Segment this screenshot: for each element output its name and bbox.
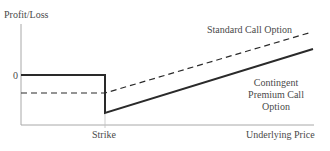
contingent-premium-annotation: Contingent Premium Call Option	[240, 77, 312, 113]
standard-call-annotation: Standard Call Option	[207, 24, 292, 35]
payoff-chart: Profit/Loss 0 Strike Underlying Price St…	[0, 0, 330, 151]
x-axis-label: Underlying Price	[246, 129, 315, 140]
y-axis-label: Profit/Loss	[4, 9, 48, 20]
x-tick-strike: Strike	[92, 129, 116, 140]
y-tick-zero: 0	[13, 70, 18, 81]
